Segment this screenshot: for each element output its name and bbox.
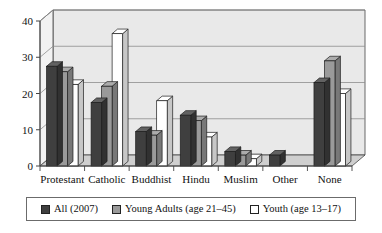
- bar-side-face: [68, 67, 73, 166]
- bar-side-face: [167, 96, 172, 166]
- bar-front-face: [47, 66, 58, 166]
- bar-side-face: [212, 132, 217, 166]
- bar-side-face: [123, 29, 128, 166]
- bar-front-face: [269, 155, 280, 166]
- bar-side-face: [57, 62, 62, 166]
- bar-side-face: [146, 127, 151, 166]
- x-category-label: Buddhist: [132, 173, 172, 185]
- y-tick-label: 40: [22, 15, 34, 27]
- bar-side-face: [191, 111, 196, 166]
- chart-legend: All (2007) Young Adults (age 21–45) Yout…: [26, 197, 356, 221]
- y-tick-label: 20: [22, 88, 34, 100]
- bar-front-face: [225, 152, 236, 167]
- plot-area: 010203040 ProtestantCatholicBuddhistHind…: [0, 0, 382, 190]
- bar-side-face: [324, 78, 329, 166]
- bar-side-face: [345, 89, 350, 166]
- legend-item: Youth (age 13–17): [250, 204, 341, 215]
- bar-front-face: [314, 83, 325, 166]
- bar-front-face: [180, 115, 191, 166]
- legend-label-young-adults: Young Adults (age 21–45): [125, 204, 236, 215]
- bar-side-face: [102, 98, 107, 166]
- bar-side-face: [78, 80, 83, 166]
- x-category-label: Protestant: [40, 173, 84, 185]
- x-axis-labels: ProtestantCatholicBuddhistHinduMuslimOth…: [40, 166, 352, 185]
- y-tick-label: 10: [22, 124, 34, 136]
- x-category-label: Hindu: [182, 173, 210, 185]
- x-category-label: None: [318, 173, 342, 185]
- bar-side-face: [335, 56, 340, 166]
- bar-side-face: [112, 82, 117, 166]
- legend-item: Young Adults (age 21–45): [112, 204, 236, 215]
- x-category-label: Other: [273, 173, 298, 185]
- legend-swatch-young-adults: [112, 205, 121, 214]
- bar-front-face: [91, 103, 102, 166]
- bar-side-face: [201, 116, 206, 166]
- legend-label-youth: Youth (age 13–17): [263, 204, 341, 215]
- x-category-label: Catholic: [88, 173, 125, 185]
- y-axis-ticks: 010203040: [22, 15, 40, 172]
- legend-item: All (2007): [41, 204, 98, 215]
- legend-label-all: All (2007): [54, 204, 98, 215]
- bar-chart: 010203040 ProtestantCatholicBuddhistHind…: [0, 0, 382, 233]
- legend-swatch-youth: [250, 205, 259, 214]
- y-tick-label: 0: [28, 160, 34, 172]
- x-category-label: Muslim: [223, 173, 258, 185]
- y-tick-label: 30: [22, 51, 34, 63]
- bar-front-face: [136, 132, 147, 166]
- bar-side-face: [157, 131, 162, 166]
- legend-swatch-all: [41, 205, 50, 214]
